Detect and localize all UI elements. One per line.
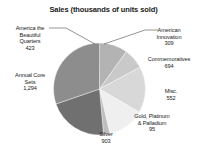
slice-label-american-innovation: American Innovation 309 [143, 27, 195, 47]
slice-value: 694 [136, 63, 202, 70]
slice-label-line2: Innovation [157, 34, 182, 40]
slice-label-line1: Annual Core [15, 72, 45, 78]
slice-value: 95 [122, 126, 182, 133]
slice-label-line1: American [158, 27, 181, 33]
slice-label-commemoratives: Commemoratives 694 [136, 56, 202, 69]
slice-label-line3: Quarters [20, 38, 41, 44]
slice-label-line1: Commemoratives [148, 56, 190, 62]
slice-label-misc: Misc. 552 [150, 88, 192, 101]
slice-label-line2: & Palladium [138, 120, 167, 126]
slice-value: 1,294 [4, 85, 56, 92]
slice-value: 903 [84, 138, 128, 145]
slice-value: 309 [143, 40, 195, 47]
slice-value: 552 [150, 95, 192, 102]
slice-label-line2: Beautiful [20, 32, 41, 38]
slice-value: 423 [2, 45, 58, 52]
slice-label-america-the-beautiful-quarters: America the Beautiful Quarters 423 [2, 25, 58, 51]
slice-label-silver: Silver 903 [84, 131, 128, 144]
leader-lines-group [49, 28, 158, 44]
slice-label-line2: Sets [25, 79, 36, 85]
slice-label-line1: Misc. [165, 88, 178, 94]
slice-label-annual-core-sets: Annual Core Sets 1,294 [4, 72, 56, 92]
slice-label-line1: Gold, Platinum [134, 113, 169, 119]
slice-label-gold-platinum-palladium: Gold, Platinum & Palladium 95 [122, 113, 182, 133]
slice-label-line1: America the [16, 25, 45, 31]
pie-chart-figure: Sales (thousands of units sold) America … [0, 0, 207, 158]
slice-label-line1: Silver [99, 131, 112, 137]
